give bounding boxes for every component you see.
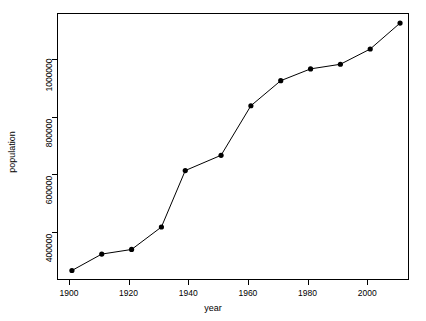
- x-tick-label: 1900: [49, 288, 89, 298]
- y-tick-label: 400000: [44, 231, 54, 265]
- data-point: [338, 62, 343, 67]
- data-point: [308, 66, 313, 71]
- x-tick-label: 1940: [168, 288, 208, 298]
- data-point: [248, 103, 253, 108]
- x-tick-label: 1960: [228, 288, 268, 298]
- data-point: [183, 168, 188, 173]
- x-axis-title: year: [0, 303, 426, 313]
- x-tick-label: 1980: [288, 288, 328, 298]
- data-point: [99, 251, 104, 256]
- population-line-chart: 4000006000008000001000000 19001920194019…: [0, 0, 426, 321]
- data-point: [397, 20, 402, 25]
- data-point: [69, 268, 74, 273]
- y-tick-label: 800000: [44, 116, 54, 150]
- data-point: [218, 153, 223, 158]
- data-point: [278, 78, 283, 83]
- series-line: [72, 23, 400, 270]
- data-series-layer: [57, 13, 409, 280]
- y-tick-label: 1000000: [44, 58, 54, 92]
- data-point: [159, 224, 164, 229]
- x-tick-mark: [188, 280, 189, 285]
- data-point: [368, 46, 373, 51]
- x-tick-mark: [129, 280, 130, 285]
- x-tick-mark: [367, 280, 368, 285]
- x-tick-label: 1920: [109, 288, 149, 298]
- x-tick-mark: [308, 280, 309, 285]
- x-tick-mark: [69, 280, 70, 285]
- x-tick-label: 2000: [347, 288, 387, 298]
- data-point: [129, 247, 134, 252]
- y-axis-title: population: [7, 122, 17, 182]
- y-tick-label: 600000: [44, 173, 54, 207]
- x-tick-mark: [248, 280, 249, 285]
